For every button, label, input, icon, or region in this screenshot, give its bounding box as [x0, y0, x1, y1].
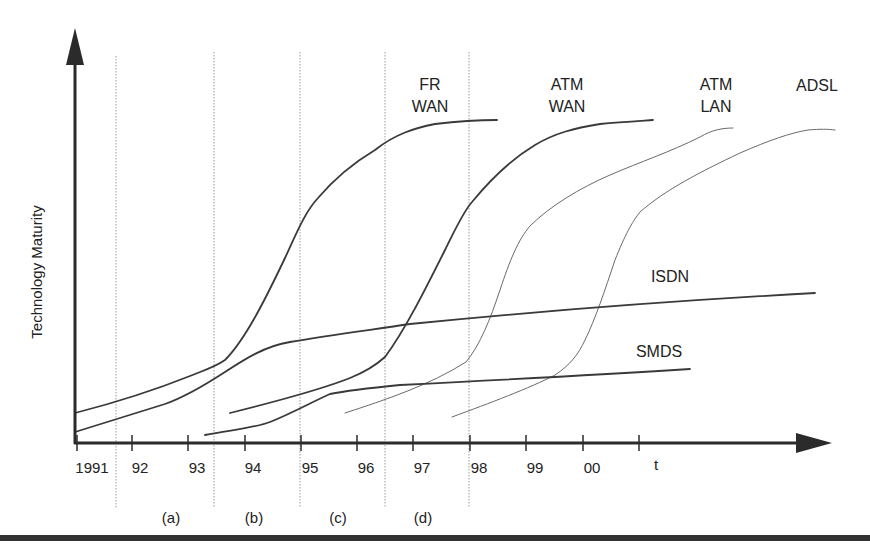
tick-label-95: 95: [302, 459, 319, 476]
curve-smds: [205, 369, 690, 435]
curve-isdn: [75, 293, 815, 432]
tick-label-97: 97: [414, 459, 431, 476]
label-atm-wan-2: WAN: [549, 98, 586, 115]
phase-label-c: (c): [329, 509, 347, 526]
y-axis-arrow-icon: [66, 28, 84, 65]
label-atm-lan-1: ATM: [700, 76, 733, 93]
label-smds: SMDS: [636, 343, 682, 360]
tick-label-00: 00: [584, 459, 601, 476]
tick-label-94: 94: [245, 459, 262, 476]
x-axis-label: t: [654, 456, 659, 473]
phase-dividers: [116, 52, 469, 508]
tick-label-1991: 1991: [75, 459, 108, 476]
x-axis: [74, 433, 832, 453]
bottom-rule: [0, 535, 870, 541]
label-fr: FR: [419, 76, 440, 93]
tick-label-93: 93: [189, 459, 206, 476]
technology-maturity-chart: 1991 92 93 94 95 96 97 98 99 00 t Techno…: [0, 0, 870, 558]
label-atm-wan-1: ATM: [551, 76, 584, 93]
y-axis-label: Technology Maturity: [28, 205, 45, 339]
tick-label-96: 96: [358, 459, 375, 476]
tick-label-98: 98: [471, 459, 488, 476]
label-isdn: ISDN: [651, 268, 689, 285]
phase-label-d: (d): [414, 509, 432, 526]
x-axis-arrow-icon: [796, 433, 832, 453]
label-atm-lan-2: LAN: [700, 98, 731, 115]
label-adsl: ADSL: [796, 77, 838, 94]
phase-label-b: (b): [245, 509, 263, 526]
y-axis: [66, 28, 84, 444]
phase-label-a: (a): [162, 509, 180, 526]
curve-fr-wan: [75, 120, 497, 413]
curve-adsl: [452, 129, 835, 417]
label-fr-wan: WAN: [412, 98, 449, 115]
tick-label-92: 92: [132, 459, 149, 476]
curve-atm-wan: [230, 120, 653, 413]
tick-label-99: 99: [527, 459, 544, 476]
